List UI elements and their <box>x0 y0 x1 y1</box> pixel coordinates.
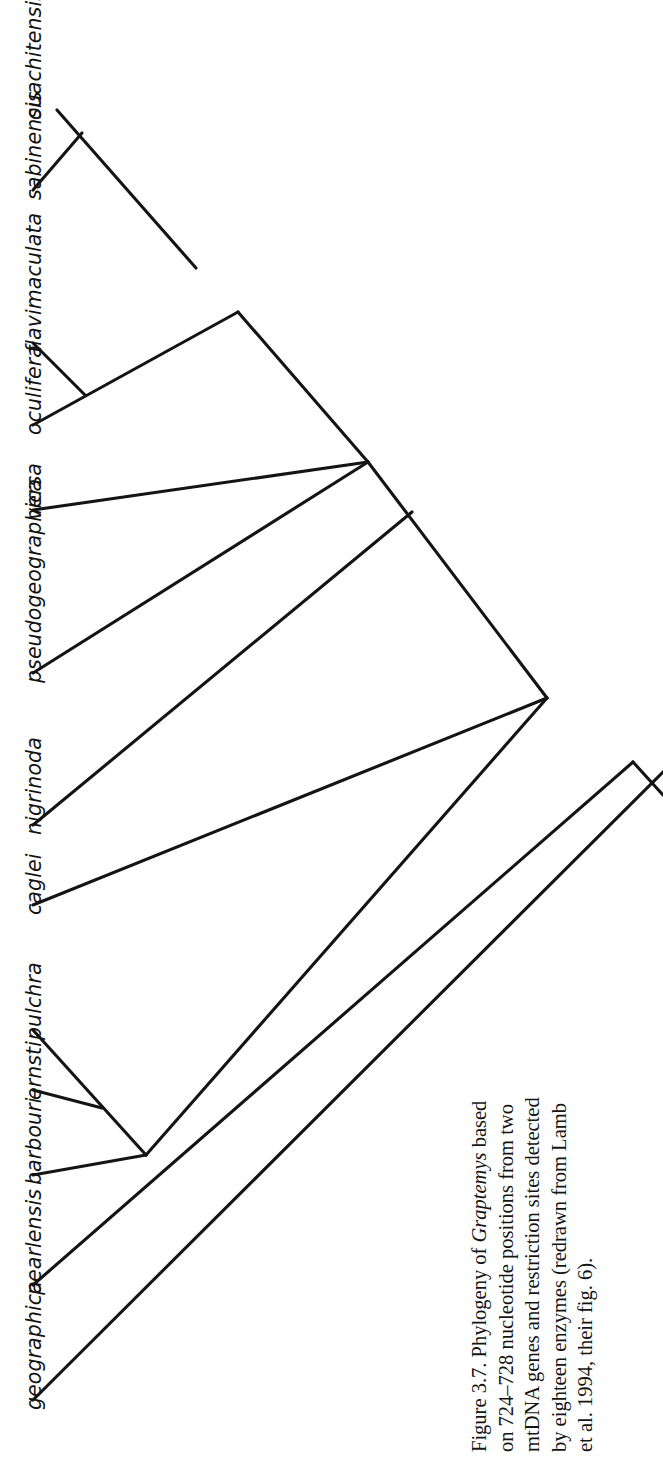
caption-line-5: et al. 1994, their fig. 6). <box>572 1097 599 1452</box>
tree-branch-caglei-branch <box>33 698 547 905</box>
taxon-label-geographica: geographica <box>24 1281 45 1410</box>
tree-branch-ouachitensis-branch <box>57 110 196 268</box>
taxon-label-flavimaculata: flavimaculata <box>24 213 45 353</box>
figure-caption: Figure 3.7. Phylogeny of Graptemys based… <box>466 1097 599 1452</box>
caption-line-1: Figure 3.7. Phylogeny of Graptemys based <box>466 1097 493 1452</box>
caption-line-4: by eighteen enzymes (redrawn from Lamb <box>546 1097 573 1452</box>
taxon-label-pulchra: pulchra <box>24 962 45 1040</box>
tree-branch-barbouri-branch <box>33 1155 146 1175</box>
tree-branch-nigrinoda-branch <box>33 512 412 825</box>
taxon-label-oculifera: oculifera <box>24 345 45 435</box>
taxon-label-pearlensis: pearlensis <box>24 1189 45 1295</box>
genus-name-italic: Graptemys <box>468 1152 490 1242</box>
taxon-label-pseudogeographica: pseudogeographica <box>24 479 45 683</box>
caption-line-3: mtDNA genes and restriction sites detect… <box>519 1097 546 1452</box>
taxon-label-nigrinoda: nigrinoda <box>24 737 45 835</box>
tree-branch-versa-branch <box>33 462 368 510</box>
tree-branch-upper-internal-link <box>238 312 368 462</box>
tree-branch-pulchra-branch <box>33 1030 146 1155</box>
tree-branch-oculifera-branch <box>33 312 238 425</box>
taxon-label-caglei: caglei <box>24 854 45 915</box>
tree-branch-polytomy-stem <box>368 462 547 698</box>
taxon-label-sabinensis: sabinensis <box>24 91 45 200</box>
taxon-label-ernsti: ernsti <box>24 1041 45 1100</box>
taxon-label-barbouri: barbouri <box>24 1098 45 1185</box>
tree-branch-pseudogeographica-branch <box>33 462 368 673</box>
caption-line-2: on 724–728 nucleotide positions from two <box>493 1097 520 1452</box>
figure-container: ouachitensissabinensisflavimaculataoculi… <box>0 0 663 1467</box>
